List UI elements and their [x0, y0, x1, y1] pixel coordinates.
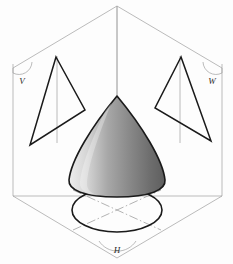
box-ridge-left — [13, 6, 117, 68]
v-label-arc — [13, 62, 32, 74]
plane-label-v: V — [19, 76, 26, 86]
box-floor-left — [13, 196, 117, 258]
front-view-triangle — [30, 57, 85, 145]
box-floor-right — [117, 196, 222, 258]
side-view-projection — [155, 56, 211, 143]
side-view-triangle — [155, 57, 211, 141]
front-view-projection — [30, 56, 85, 145]
w-label-arc — [203, 62, 222, 74]
projection-diagram: V W H — [0, 0, 233, 264]
box-ridge-right — [117, 6, 222, 68]
diagram-canvas: V W H — [0, 0, 233, 264]
plane-label-w: W — [208, 76, 217, 86]
plane-label-h: H — [113, 245, 121, 255]
